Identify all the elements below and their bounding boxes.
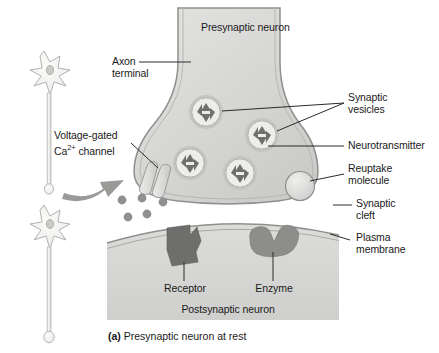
label-reuptake-molecule: Reuptake molecule bbox=[348, 163, 392, 186]
vgcc-ca: Ca bbox=[54, 144, 67, 156]
caption-prefix: (a) bbox=[108, 330, 121, 342]
figure-caption: (a) Presynaptic neuron at rest bbox=[108, 330, 246, 342]
label-plasma-membrane: Plasma membrane bbox=[356, 232, 405, 255]
neuron-illustration-lower bbox=[30, 205, 70, 343]
label-voltage-gated-calcium-channel: Voltage-gatedCa2+ channel bbox=[54, 130, 118, 157]
reuptake-molecule bbox=[286, 172, 315, 201]
vgcc-channel: channel bbox=[76, 144, 115, 156]
vgcc-superscript: 2+ bbox=[67, 143, 75, 152]
caption-text: Presynaptic neuron at rest bbox=[124, 330, 247, 342]
synaptic-vesicle bbox=[189, 95, 223, 129]
synaptic-vesicle bbox=[223, 156, 257, 190]
synaptic-vesicle bbox=[173, 146, 207, 180]
vgcc-line1: Voltage-gated bbox=[54, 129, 118, 141]
magnification-arrow bbox=[62, 180, 124, 201]
label-synaptic-vesicles: Synaptic vesicles bbox=[348, 92, 387, 115]
label-enzyme: Enzyme bbox=[246, 283, 302, 295]
label-synaptic-cleft: Synaptic cleft bbox=[356, 198, 395, 221]
label-neurotransmitter: Neurotransmitter bbox=[348, 140, 425, 152]
synaptic-vesicle bbox=[245, 118, 279, 152]
label-axon-terminal: Axon terminal bbox=[112, 56, 149, 79]
label-presynaptic-neuron: Presynaptic neuron bbox=[201, 22, 290, 34]
label-receptor: Receptor bbox=[157, 283, 213, 295]
label-postsynaptic-neuron: Postsynaptic neuron bbox=[168, 304, 288, 316]
synapse-figure: Presynaptic neuron Axon terminal Voltage… bbox=[0, 0, 439, 353]
neuron-illustration-upper bbox=[30, 51, 70, 194]
receptor-protein bbox=[167, 225, 201, 266]
